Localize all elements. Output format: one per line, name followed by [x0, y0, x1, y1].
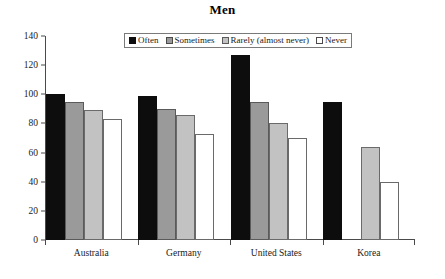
y-tick-label: 20 — [29, 206, 39, 216]
y-tick-label: 0 — [33, 235, 38, 245]
legend-item[interactable]: Rarely (almost never) — [222, 36, 309, 45]
bar-group — [46, 36, 138, 240]
y-tick-label: 60 — [29, 148, 39, 158]
bar — [103, 119, 122, 240]
x-tick-mark — [230, 240, 231, 245]
legend-item[interactable]: Sometimes — [166, 36, 215, 45]
bar — [65, 102, 84, 240]
legend-label: Sometimes — [175, 36, 215, 45]
bar — [288, 138, 307, 240]
bar-group — [138, 36, 230, 240]
x-tick-mark — [323, 240, 324, 245]
bar — [176, 115, 195, 240]
legend-label: Often — [138, 36, 159, 45]
bar — [46, 94, 65, 240]
bar-group — [231, 36, 323, 240]
bar — [269, 123, 288, 240]
legend-item[interactable]: Often — [129, 36, 159, 45]
x-tick-mark — [138, 240, 139, 245]
y-tick-label: 100 — [24, 89, 38, 99]
legend-swatch-icon — [316, 37, 323, 44]
legend-swatch-icon — [222, 37, 229, 44]
chart-legend: OftenSometimesRarely (almost never)Never — [124, 33, 352, 48]
bar — [250, 102, 269, 240]
legend-item[interactable]: Never — [316, 36, 347, 45]
x-axis-ticks — [45, 240, 415, 246]
bar — [231, 55, 250, 240]
y-tick-label: 40 — [29, 177, 39, 187]
x-axis-label: United States — [230, 248, 323, 266]
bar-chart: Men 020406080100120140 AustraliaGermanyU… — [0, 0, 445, 279]
bar — [157, 109, 176, 240]
x-axis-label: Australia — [45, 248, 138, 266]
bar — [84, 110, 103, 240]
legend-swatch-icon — [166, 37, 173, 44]
y-tick-label: 120 — [24, 60, 38, 70]
x-tick-mark — [414, 240, 415, 245]
legend-swatch-icon — [129, 37, 136, 44]
x-axis-label: Germany — [138, 248, 231, 266]
x-tick-mark — [45, 240, 46, 245]
bar — [361, 147, 380, 240]
bar-group — [323, 36, 415, 240]
y-tick-label: 140 — [24, 31, 38, 41]
bar-groups — [46, 36, 415, 240]
legend-label: Rarely (almost never) — [231, 36, 309, 45]
legend-label: Never — [325, 36, 347, 45]
y-tick-label: 80 — [29, 118, 39, 128]
bar — [138, 96, 157, 240]
x-axis-label: Korea — [323, 248, 416, 266]
bar — [380, 182, 399, 240]
y-axis: 020406080100120140 — [0, 36, 45, 240]
chart-title: Men — [0, 2, 445, 18]
bar — [195, 134, 214, 240]
x-axis-labels: AustraliaGermanyUnited StatesKorea — [45, 248, 415, 266]
bar — [323, 102, 342, 240]
